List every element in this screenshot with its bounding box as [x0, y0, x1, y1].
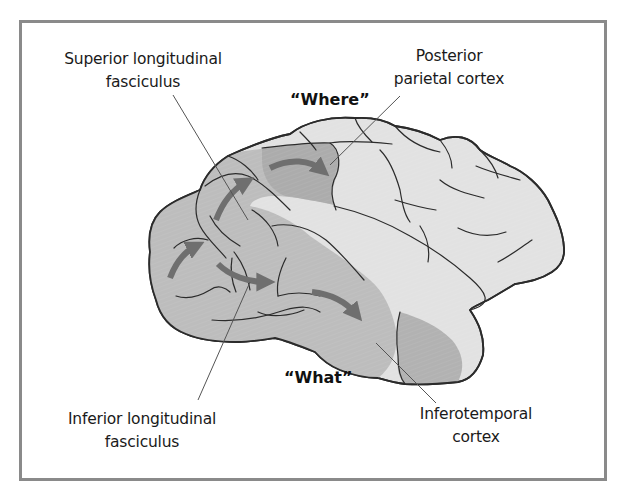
label-inferotemporal-line1: Inferotemporal	[410, 403, 542, 426]
label-inferior-line2: fasciculus	[52, 431, 232, 454]
label-superior-longitudinal-fasciculus: Superior longitudinal fasciculus	[48, 48, 238, 94]
label-inferotemporal-line2: cortex	[410, 426, 542, 449]
label-inferior-line1: Inferior longitudinal	[52, 408, 232, 431]
brain-diagram-figure: Superior longitudinal fasciculus Posteri…	[0, 0, 622, 490]
label-where-stream: “Where”	[290, 90, 370, 109]
label-superior-line1: Superior longitudinal	[48, 48, 238, 71]
label-posterior-line1: Posterior	[374, 45, 524, 68]
label-inferior-longitudinal-fasciculus: Inferior longitudinal fasciculus	[52, 408, 232, 454]
label-inferotemporal-cortex: Inferotemporal cortex	[410, 403, 542, 449]
label-posterior-line2: parietal cortex	[374, 68, 524, 91]
label-posterior-parietal-cortex: Posterior parietal cortex	[374, 45, 524, 91]
label-what-stream: “What”	[284, 368, 353, 387]
label-superior-line2: fasciculus	[48, 71, 238, 94]
